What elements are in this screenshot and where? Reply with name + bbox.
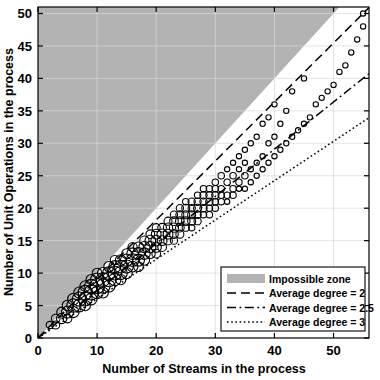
y-tick-label: 15 [18,234,32,249]
x-tick-label: 0 [34,343,41,358]
legend-label: Impossible zone [269,273,351,285]
y-tick-label: 10 [18,266,32,281]
x-tick-label: 10 [90,343,104,358]
y-axis-title: Number of Unit Operations in the process [2,48,16,296]
y-tick-label: 50 [18,6,32,21]
y-tick-label: 25 [18,169,32,184]
y-tick-label: 5 [25,299,32,314]
x-tick-label: 40 [267,343,281,358]
x-tick-label: 50 [326,343,340,358]
x-axis-title: Number of Streams in the process [102,362,306,376]
y-tick-label: 30 [18,136,32,151]
legend-label: Average degree = 3 [269,316,365,328]
legend-label: Average degree = 2 [269,287,365,299]
y-tick-label: 20 [18,201,32,216]
legend-swatch-impossible-zone [227,274,265,283]
x-tick-label: 20 [149,343,163,358]
y-tick-label: 40 [18,71,32,86]
scatter-plot[interactable]: 0102030405005101520253035404550 Number o… [0,0,380,380]
legend-label: Average degree = 2.5 [269,302,374,314]
y-tick-label: 0 [25,331,32,346]
x-tick-label: 30 [208,343,222,358]
y-tick-label: 45 [18,39,32,54]
legend[interactable]: Impossible zoneAverage degree = 2Average… [221,267,374,331]
y-tick-label: 35 [18,104,32,119]
figure-container: 0102030405005101520253035404550 Number o… [0,0,380,380]
